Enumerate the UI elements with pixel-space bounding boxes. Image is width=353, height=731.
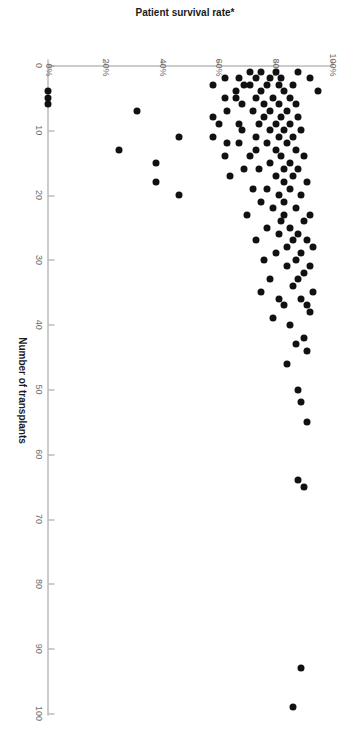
data-point xyxy=(303,418,310,425)
x-axis-tick-label: 80 xyxy=(33,578,43,588)
data-point xyxy=(243,211,250,218)
data-point xyxy=(238,126,245,133)
data-point xyxy=(258,198,265,205)
data-point xyxy=(297,126,304,133)
x-axis-tick-label: 40 xyxy=(33,319,43,329)
data-point xyxy=(303,178,310,185)
data-point xyxy=(306,74,313,81)
x-axis-tick-label: 70 xyxy=(33,514,43,524)
data-point xyxy=(277,217,284,224)
data-point xyxy=(240,81,247,88)
data-point xyxy=(303,347,310,354)
data-point xyxy=(263,224,270,231)
x-axis-tick-label: 100 xyxy=(33,705,43,720)
data-point xyxy=(280,211,287,218)
data-point xyxy=(294,68,301,75)
data-point xyxy=(294,230,301,237)
data-point xyxy=(314,87,321,94)
data-point xyxy=(152,178,159,185)
data-point xyxy=(175,133,182,140)
data-point xyxy=(289,172,296,179)
data-point xyxy=(272,68,279,75)
data-point xyxy=(235,139,242,146)
data-point xyxy=(175,191,182,198)
data-point xyxy=(309,243,316,250)
data-point xyxy=(292,340,299,347)
data-point xyxy=(292,100,299,107)
data-point xyxy=(300,334,307,341)
data-point xyxy=(266,74,273,81)
data-point xyxy=(280,301,287,308)
data-point xyxy=(272,146,279,153)
data-point xyxy=(209,113,216,120)
data-point xyxy=(280,126,287,133)
data-point xyxy=(263,185,270,192)
y-axis-title: Patient survival rate* xyxy=(125,7,245,18)
data-point xyxy=(240,165,247,172)
data-point xyxy=(300,269,307,276)
data-point xyxy=(275,230,282,237)
data-point xyxy=(221,74,228,81)
x-axis-tick-label: 0 xyxy=(33,62,43,67)
data-point xyxy=(294,113,301,120)
data-point xyxy=(266,275,273,282)
data-point xyxy=(255,120,262,127)
data-point xyxy=(249,185,256,192)
data-point xyxy=(277,74,284,81)
x-axis-tick-label: 10 xyxy=(33,125,43,135)
data-point xyxy=(283,262,290,269)
data-point xyxy=(297,664,304,671)
data-point xyxy=(235,120,242,127)
data-point xyxy=(252,94,259,101)
plot-area xyxy=(48,65,332,713)
data-point xyxy=(294,476,301,483)
data-point xyxy=(280,198,287,205)
data-point xyxy=(297,191,304,198)
data-point xyxy=(289,282,296,289)
data-point xyxy=(215,120,222,127)
data-point xyxy=(249,107,256,114)
data-point xyxy=(292,256,299,263)
data-point xyxy=(260,100,267,107)
data-point xyxy=(294,165,301,172)
data-point xyxy=(294,275,301,282)
data-point xyxy=(300,483,307,490)
data-point xyxy=(252,236,259,243)
data-point xyxy=(269,204,276,211)
data-point xyxy=(286,185,293,192)
data-point xyxy=(294,386,301,393)
data-point xyxy=(258,288,265,295)
data-point xyxy=(283,107,290,114)
data-point xyxy=(286,224,293,231)
data-point xyxy=(221,152,228,159)
data-point xyxy=(277,152,284,159)
data-point xyxy=(283,139,290,146)
data-point xyxy=(275,100,282,107)
data-point xyxy=(280,165,287,172)
data-point xyxy=(275,191,282,198)
data-point xyxy=(292,146,299,153)
data-point xyxy=(303,301,310,308)
data-point xyxy=(252,133,259,140)
data-point xyxy=(272,249,279,256)
data-point xyxy=(266,126,273,133)
data-point xyxy=(266,159,273,166)
data-point xyxy=(289,133,296,140)
data-point xyxy=(292,204,299,211)
data-point xyxy=(289,81,296,88)
data-point xyxy=(277,113,284,120)
data-point xyxy=(223,107,230,114)
data-point xyxy=(266,107,273,114)
data-point xyxy=(286,321,293,328)
data-point xyxy=(260,256,267,263)
data-point xyxy=(309,288,316,295)
data-point xyxy=(258,87,265,94)
data-point xyxy=(45,87,52,94)
data-point xyxy=(289,236,296,243)
data-point xyxy=(258,68,265,75)
data-point xyxy=(246,152,253,159)
data-point xyxy=(223,139,230,146)
data-point xyxy=(263,81,270,88)
data-point xyxy=(289,703,296,710)
data-point xyxy=(297,398,304,405)
